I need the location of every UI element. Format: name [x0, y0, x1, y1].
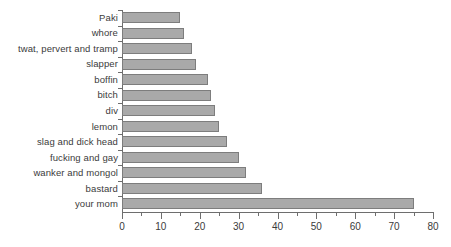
- bar-row: [122, 72, 433, 88]
- x-axis-label: 80: [427, 221, 438, 232]
- x-axis-label: 10: [155, 221, 166, 232]
- bar-chart: Pakiwhoretwat, pervert and trampslapperb…: [0, 0, 451, 247]
- bar: [122, 152, 239, 163]
- bar: [122, 74, 208, 85]
- bar: [122, 136, 227, 147]
- bar-row: [122, 26, 433, 42]
- x-tick: [278, 213, 279, 219]
- bar: [122, 183, 262, 194]
- x-tick: [355, 213, 356, 219]
- bar-row: [122, 196, 433, 212]
- bar-row: [122, 119, 433, 135]
- bar-row: [122, 181, 433, 197]
- y-tick: [118, 165, 122, 166]
- y-axis-label: fucking and gay: [0, 153, 118, 163]
- y-tick: [118, 88, 122, 89]
- y-axis-label: slag and dick head: [0, 137, 118, 147]
- x-axis-label: 40: [272, 221, 283, 232]
- x-tick: [316, 213, 317, 219]
- x-tick-minor: [414, 213, 415, 216]
- bar: [122, 28, 184, 39]
- y-tick: [118, 72, 122, 73]
- x-tick: [122, 213, 123, 219]
- x-axis-label: 20: [194, 221, 205, 232]
- y-tick: [118, 196, 122, 197]
- y-axis-labels: Pakiwhoretwat, pervert and trampslapperb…: [0, 10, 118, 212]
- x-tick-minor: [375, 213, 376, 216]
- y-tick: [118, 26, 122, 27]
- bar-row: [122, 103, 433, 119]
- bar-row: [122, 41, 433, 57]
- x-axis-label: 30: [233, 221, 244, 232]
- y-tick: [118, 103, 122, 104]
- y-axis-label: lemon: [0, 122, 118, 132]
- y-axis-label: boffin: [0, 75, 118, 85]
- x-tick: [161, 213, 162, 219]
- x-axis-label: 0: [119, 221, 125, 232]
- y-axis-label: bitch: [0, 90, 118, 100]
- bar-row: [122, 165, 433, 181]
- bar: [122, 167, 246, 178]
- y-tick: [118, 181, 122, 182]
- x-tick: [200, 213, 201, 219]
- bar: [122, 90, 211, 101]
- x-tick-minor: [297, 213, 298, 216]
- bar: [122, 59, 196, 70]
- y-tick: [118, 41, 122, 42]
- bar: [122, 198, 414, 209]
- y-tick: [118, 150, 122, 151]
- x-tick-minor: [258, 213, 259, 216]
- x-tick-minor: [336, 213, 337, 216]
- y-axis-label: your mom: [0, 199, 118, 209]
- bar-row: [122, 10, 433, 26]
- x-axis-label: 50: [311, 221, 322, 232]
- bar: [122, 105, 215, 116]
- y-tick: [118, 57, 122, 58]
- y-tick: [118, 134, 122, 135]
- y-axis-label: slapper: [0, 59, 118, 69]
- x-axis-label: 60: [350, 221, 361, 232]
- bar-row: [122, 88, 433, 104]
- x-tick-minor: [180, 213, 181, 216]
- bar-row: [122, 150, 433, 166]
- x-axis-label: 70: [389, 221, 400, 232]
- y-tick: [118, 119, 122, 120]
- x-tick-minor: [219, 213, 220, 216]
- bar-row: [122, 134, 433, 150]
- y-axis-label: div: [0, 106, 118, 116]
- bar: [122, 12, 180, 23]
- y-axis-label: whore: [0, 28, 118, 38]
- x-tick: [433, 213, 434, 219]
- bar: [122, 121, 219, 132]
- x-tick: [239, 213, 240, 219]
- y-axis-label: bastard: [0, 184, 118, 194]
- plot-area: [122, 10, 433, 212]
- y-tick: [118, 10, 122, 11]
- bar: [122, 43, 192, 54]
- y-axis-label: Paki: [0, 13, 118, 23]
- x-tick-minor: [141, 213, 142, 216]
- y-axis-label: wanker and mongol: [0, 168, 118, 178]
- bar-row: [122, 57, 433, 73]
- x-tick: [394, 213, 395, 219]
- y-axis-label: twat, pervert and tramp: [0, 44, 118, 54]
